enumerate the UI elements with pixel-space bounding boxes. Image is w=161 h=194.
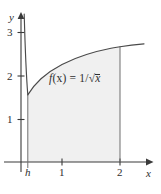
y-axis-arrow-icon	[18, 12, 25, 19]
function-annotation-equals: =	[66, 72, 79, 84]
x-tick-label-h: h	[25, 167, 31, 178]
math-figure: y x 1 2 3 h 1 2 f(x) = 1/√x	[0, 0, 161, 194]
plot-canvas	[0, 0, 161, 194]
x-axis-arrow-icon	[146, 159, 154, 166]
y-axis-label: y	[9, 12, 14, 23]
function-annotation-arg: (x)	[52, 72, 66, 84]
radical-overbar	[95, 74, 100, 75]
y-tick-label-3: 3	[7, 27, 13, 38]
x-axis-label: x	[146, 168, 151, 179]
x-tick-label-2: 2	[117, 167, 123, 178]
function-annotation-radical-group: √x	[89, 73, 101, 85]
function-annotation-numerator: 1/	[79, 72, 88, 84]
y-tick-label-2: 2	[7, 71, 13, 82]
function-annotation: f(x) = 1/√x	[49, 73, 100, 85]
shaded-area-under-curve	[28, 47, 120, 162]
y-tick-label-1: 1	[7, 114, 13, 125]
x-tick-label-1: 1	[59, 167, 65, 178]
